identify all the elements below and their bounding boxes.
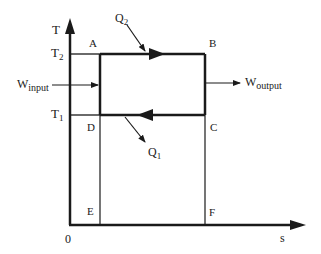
w-output-label: Woutput — [245, 75, 282, 91]
ts-diagram: T s s s 0 T2 T1 A B C D E F Q2 Q1 Winput… — [0, 0, 321, 254]
point-c-label: C — [210, 121, 217, 133]
direction-right-arrow-icon — [149, 48, 165, 60]
point-d-label: D — [87, 121, 95, 133]
q1-label: Q1 — [148, 145, 161, 161]
w-input-sub: input — [28, 82, 49, 93]
cycle-rectangle — [100, 48, 205, 121]
axes — [65, 18, 306, 230]
t1-sub: 1 — [59, 113, 64, 123]
x-axis-arrow-icon — [290, 220, 306, 230]
q1-sub: 1 — [157, 151, 162, 161]
point-f-label: F — [209, 206, 215, 218]
q2-arrow-icon — [127, 25, 145, 51]
q1-arrow-icon — [125, 117, 145, 142]
q1-main: Q — [148, 145, 157, 159]
y-axis-arrow-icon — [65, 18, 75, 34]
t2-sub: 2 — [59, 52, 64, 62]
q2-main: Q — [115, 11, 124, 25]
origin-label: 0 — [65, 232, 71, 246]
w-output-sub: output — [256, 80, 282, 91]
t1-label: T1 — [51, 106, 63, 123]
q2-sub: 2 — [124, 17, 129, 27]
w-input-main: W — [17, 77, 29, 91]
s-label: s — [280, 231, 285, 245]
point-b-label: B — [209, 37, 216, 49]
t2-label: T2 — [51, 45, 63, 62]
y-axis-label: T — [52, 22, 60, 37]
w-output-main: W — [245, 75, 257, 89]
t2-main: T — [51, 45, 59, 60]
direction-left-arrow-icon — [137, 109, 153, 121]
w-input-label: Winput — [17, 77, 49, 93]
t1-main: T — [51, 106, 59, 121]
point-e-label: E — [87, 205, 94, 217]
point-a-label: A — [89, 37, 97, 49]
q2-label: Q2 — [115, 11, 128, 27]
